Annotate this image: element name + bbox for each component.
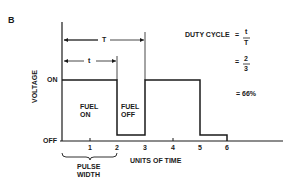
duty-cycle-label: DUTY CYCLE bbox=[185, 31, 230, 39]
level-on-label: ON bbox=[47, 76, 58, 84]
pulse-width-line1: PULSE bbox=[77, 163, 100, 171]
fuel-off-line2: OFF bbox=[121, 111, 135, 119]
panel-label: B bbox=[8, 16, 15, 24]
frac2-num: 2 bbox=[244, 55, 248, 63]
duty-eq-2: = bbox=[235, 58, 239, 66]
frac1-num: t bbox=[245, 28, 247, 36]
x-tick-4: 4 bbox=[171, 144, 175, 152]
pwm-duty-cycle-diagram: B VOLTAGE ON OFF T t FUEL ON FUEL OFF 1 … bbox=[0, 0, 290, 191]
frac1-den: T bbox=[244, 39, 248, 47]
x-tick-1: 1 bbox=[88, 144, 92, 152]
fuel-off-line1: FUEL bbox=[121, 103, 139, 111]
pulse-label: t bbox=[88, 57, 90, 65]
x-tick-2: 2 bbox=[115, 144, 119, 152]
x-tick-3: 3 bbox=[143, 144, 147, 152]
pulse-width-brace bbox=[62, 153, 117, 160]
duty-result: = 66% bbox=[236, 90, 256, 98]
fuel-on-line1: FUEL bbox=[80, 103, 98, 111]
period-label: T bbox=[102, 36, 106, 44]
frac2-den: 3 bbox=[244, 65, 248, 73]
level-off-label: OFF bbox=[43, 137, 57, 145]
duty-eq-1: = bbox=[235, 31, 239, 39]
pulse-width-line2: WIDTH bbox=[77, 171, 100, 179]
y-axis-label: VOLTAGE bbox=[31, 70, 39, 103]
fuel-on-line2: ON bbox=[80, 111, 91, 119]
x-axis-label: UNITS OF TIME bbox=[130, 157, 181, 165]
x-tick-5: 5 bbox=[198, 144, 202, 152]
x-tick-6: 6 bbox=[225, 144, 229, 152]
